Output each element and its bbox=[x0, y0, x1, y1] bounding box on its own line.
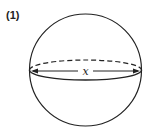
diameter-variable: x bbox=[82, 65, 89, 78]
sphere-diagram: x bbox=[0, 0, 149, 129]
